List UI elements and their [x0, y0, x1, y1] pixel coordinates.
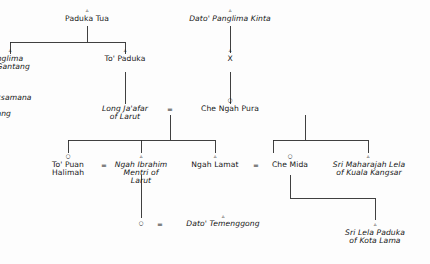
node-to-laksamana-line3: Sabatang [0, 110, 48, 118]
node-dato-panglima-kinta-line1: Dato' Panglima Kinta [175, 15, 285, 23]
node-paduka-tua[interactable]: Paduka Tua [47, 15, 127, 23]
node-to-puan-halimah[interactable]: To' Puan Halimah [33, 161, 103, 177]
marriage-symbol-daughter-temenggong: = [157, 222, 163, 229]
male-symbol-sri-lela-paduka: ▵ [370, 222, 380, 227]
node-x-unknown[interactable]: X [220, 55, 240, 63]
female-symbol-che-ngah-pura: ○ [225, 98, 235, 103]
node-to-puan-halimah-line2: Halimah [33, 169, 103, 177]
marriage-symbol-halimah-ibrahim: = [101, 163, 107, 170]
node-ngah-ibrahim-line3: Larut [108, 177, 174, 185]
node-che-ngah-pura-line1: Che Ngah Pura [178, 105, 282, 113]
node-long-jaafar-line2: of Larut [85, 113, 165, 121]
male-symbol-dato-panglima-kinta: ▵ [225, 8, 235, 13]
node-to-laksamana-durian-sabatang[interactable]: To' Laksamana Durian Sabatang [0, 94, 48, 119]
node-che-ngah-pura[interactable]: Che Ngah Pura [178, 105, 282, 113]
marriage-symbol-lamat-mida: = [253, 163, 259, 170]
node-to-paduka[interactable]: To' Paduka [90, 55, 160, 63]
family-tree-diagram: ▵ Paduka Tua ▵ Dato' Panglima Kinta ▵ To… [0, 0, 430, 264]
node-dato-temenggong-line1: Dato' Temenggong [172, 220, 274, 228]
node-paduka-tua-line1: Paduka Tua [47, 15, 127, 23]
male-symbol-paduka-tua: ▵ [82, 8, 92, 13]
node-ngah-lamat-line1: Ngah Lamat [180, 161, 250, 169]
node-to-panglima-bukit-gantang[interactable]: To' Panglima Bukit Gantang [0, 55, 46, 71]
node-sri-lela-paduka-line2: of Kota Lama [322, 237, 428, 245]
male-symbol-ngah-ibrahim: ▵ [136, 154, 146, 159]
node-sri-lela-paduka[interactable]: Sri Lela Paduka of Kota Lama [322, 229, 428, 245]
male-symbol-x-unknown: ▵ [225, 48, 235, 53]
male-symbol-to-paduka: ▵ [120, 48, 130, 53]
node-ngah-ibrahim[interactable]: Ngah Ibrahim Mentri of Larut [108, 161, 174, 186]
female-symbol-to-puan-halimah: ○ [63, 154, 73, 159]
marriage-symbol-jaafar-pura: = [167, 107, 173, 114]
male-symbol-ngah-lamat: ▵ [210, 154, 220, 159]
male-symbol-sri-maharajah-lela: ▵ [363, 154, 373, 159]
node-che-mida-line1: Che Mida [260, 161, 320, 169]
node-dato-temenggong[interactable]: Dato' Temenggong [172, 220, 274, 228]
female-symbol-che-mida: ○ [285, 154, 295, 159]
node-che-mida[interactable]: Che Mida [260, 161, 320, 169]
female-symbol-unnamed-daughter: ○ [136, 221, 146, 226]
node-dato-panglima-kinta[interactable]: Dato' Panglima Kinta [175, 15, 285, 23]
male-symbol-to-panglima-bukit-gantang: ▵ [5, 48, 15, 53]
node-to-panglima-bukit-gantang-line2: Bukit Gantang [0, 63, 46, 71]
node-long-jaafar[interactable]: Long Ja'afar of Larut [85, 105, 165, 121]
node-sri-maharajah-lela[interactable]: Sri Maharajah Lela of Kuala Kangsar [313, 161, 425, 177]
node-to-paduka-line1: To' Paduka [90, 55, 160, 63]
node-to-laksamana-line1: To' Laksamana [0, 94, 48, 102]
node-sri-maharajah-lela-line2: of Kuala Kangsar [313, 169, 425, 177]
node-ngah-lamat[interactable]: Ngah Lamat [180, 161, 250, 169]
